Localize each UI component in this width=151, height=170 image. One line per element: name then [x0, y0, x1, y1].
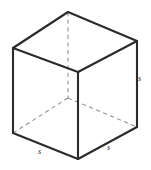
edge-length-label-bottom-left: s — [38, 148, 41, 156]
cube-drawing — [0, 0, 151, 170]
edge-top-back-left — [13, 12, 68, 48]
edge-top-back-right — [68, 12, 137, 41]
edge-length-label-right: s — [138, 75, 141, 83]
hidden-edge-bottom-back-left — [13, 98, 68, 133]
edge-bottom-front-left — [13, 133, 78, 159]
edge-length-label-bottom-right: s — [107, 144, 110, 152]
hidden-edges-group — [13, 12, 137, 133]
cube-figure: s s s — [0, 0, 151, 170]
edge-top-front-right — [78, 41, 137, 72]
solid-edges-group — [13, 12, 137, 159]
